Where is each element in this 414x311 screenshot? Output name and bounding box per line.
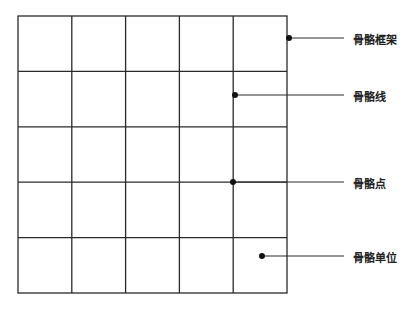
skeleton-grid bbox=[18, 16, 287, 293]
line-dot-icon bbox=[232, 92, 238, 98]
label-skeleton-unit: 骨骼单位 bbox=[353, 249, 397, 265]
label-skeleton-frame: 骨骼框架 bbox=[353, 31, 397, 47]
marker-dots bbox=[230, 35, 292, 259]
unit-dot-icon bbox=[259, 253, 265, 259]
point-dot-icon bbox=[230, 179, 236, 185]
skeleton-frame-border bbox=[18, 16, 287, 293]
skeleton-grid-diagram bbox=[0, 0, 414, 311]
label-skeleton-point: 骨骼点 bbox=[353, 175, 386, 191]
frame-dot-icon bbox=[286, 35, 292, 41]
leader-lines bbox=[233, 38, 344, 256]
label-skeleton-line: 骨骼线 bbox=[353, 88, 386, 104]
